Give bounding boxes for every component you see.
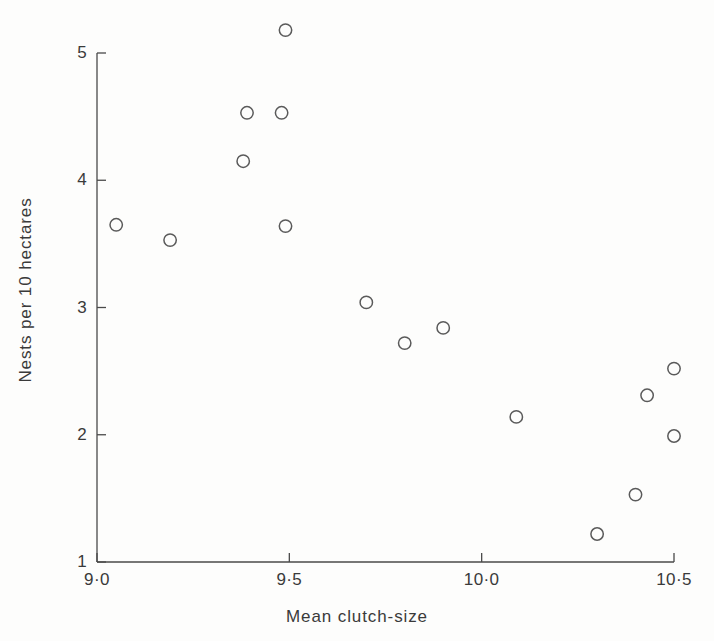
plot-canvas bbox=[0, 0, 714, 641]
x-tick-label: 9·0 bbox=[84, 570, 110, 590]
axis-ticks bbox=[97, 53, 674, 562]
y-axis-title: Nests per 10 hectares bbox=[10, 0, 42, 580]
scatter-plot-figure: 9·09·510·010·5 12345 Mean clutch-size Ne… bbox=[0, 0, 714, 641]
y-tick-label: 4 bbox=[61, 170, 87, 190]
y-tick-label: 5 bbox=[61, 43, 87, 63]
data-points bbox=[110, 24, 680, 540]
y-axis-title-text: Nests per 10 hectares bbox=[16, 197, 36, 382]
x-axis-title: Mean clutch-size bbox=[0, 607, 714, 627]
axis-lines bbox=[97, 53, 674, 562]
x-tick-label: 10·0 bbox=[464, 570, 500, 590]
y-tick-label: 2 bbox=[61, 425, 87, 445]
x-tick-label: 10·5 bbox=[656, 570, 692, 590]
y-tick-label: 1 bbox=[61, 552, 87, 572]
x-tick-label: 9·5 bbox=[276, 570, 302, 590]
y-tick-label: 3 bbox=[61, 298, 87, 318]
